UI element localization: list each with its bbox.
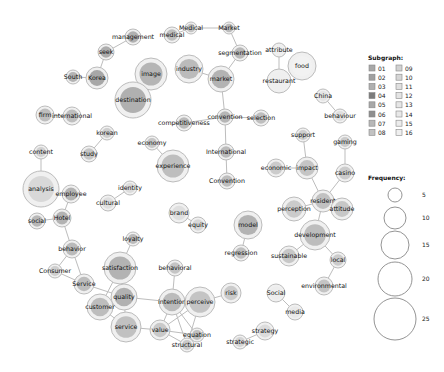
node-service[interactable]: service [111, 312, 141, 342]
node-perceive[interactable]: perceive [185, 287, 215, 317]
node-label: strategic [226, 338, 254, 346]
node-South[interactable]: South [64, 70, 82, 84]
node-casino[interactable]: casino [335, 164, 355, 182]
node-sustainable[interactable]: sustainable [271, 246, 307, 266]
subgraph-legend-item-16: 16 [396, 129, 413, 136]
node-study[interactable]: study [80, 146, 98, 162]
node-experience[interactable]: experience [156, 150, 191, 182]
node-label: equity [188, 221, 208, 229]
node-label: economic [261, 164, 292, 171]
node-social[interactable]: social [28, 213, 46, 229]
node-identity[interactable]: identity [118, 181, 142, 195]
node-environmental[interactable]: environmental [301, 277, 347, 295]
node-label: perception [277, 205, 311, 213]
node-behavior[interactable]: behavior [58, 240, 86, 258]
node-Korea[interactable]: Korea [86, 67, 108, 89]
subgraph-label: 15 [405, 120, 413, 127]
node-quality[interactable]: quality [111, 284, 137, 310]
node-analysis[interactable]: analysis [23, 171, 59, 207]
node-economic[interactable]: economic [261, 159, 292, 177]
subgraph-label: 14 [405, 111, 413, 118]
node-regression[interactable]: regression [225, 245, 258, 261]
node-management[interactable]: management [112, 29, 155, 45]
node-employee[interactable]: employee [55, 185, 86, 203]
node-market[interactable]: market [208, 66, 234, 92]
subgraph-swatch [396, 65, 402, 71]
node-label: restaurant [263, 77, 296, 84]
node-label: attribute [265, 46, 293, 53]
node-label: analysis [28, 185, 54, 193]
node-label: medical [160, 31, 185, 38]
node-behaviour[interactable]: behaviour [324, 109, 356, 123]
node-gaming[interactable]: gaming [333, 135, 357, 149]
node-seek[interactable]: seek [98, 44, 114, 60]
node-economy[interactable]: economy [138, 136, 167, 150]
node-value[interactable]: value [150, 320, 170, 340]
node-international[interactable]: international [52, 107, 92, 125]
node-label: model [238, 221, 258, 228]
node-label: experience [156, 162, 191, 170]
node-label: support [291, 131, 316, 139]
node-attribute[interactable]: attribute [265, 43, 293, 57]
node-label: brand [170, 209, 188, 216]
node-Social[interactable]: Social [267, 284, 286, 302]
node-label: firm [39, 111, 52, 118]
node-industry[interactable]: industry [175, 55, 203, 83]
node-model[interactable]: model [234, 211, 262, 239]
subgraph-label: 11 [405, 83, 413, 90]
subgraph-label: 12 [405, 92, 413, 99]
node-competitiveness[interactable]: competitiveness [158, 115, 210, 131]
node-label: study [80, 150, 98, 158]
subgraph-label: 05 [378, 101, 386, 108]
node-label: sustainable [271, 252, 307, 259]
subgraph-swatch [396, 83, 402, 89]
subgraph-legend-item-10: 10 [396, 74, 413, 81]
node-risk[interactable]: risk [221, 283, 241, 303]
node-China[interactable]: China [314, 89, 332, 103]
node-food[interactable]: food [288, 52, 316, 80]
node-support[interactable]: support [291, 128, 316, 142]
node-International[interactable]: International [206, 144, 246, 160]
subgraph-label: 10 [405, 74, 413, 81]
node-strategy[interactable]: strategy [252, 322, 279, 340]
node-label: regression [225, 249, 258, 257]
node-loyalty[interactable]: loyalty [122, 232, 143, 246]
node-label: International [206, 148, 246, 155]
node-Market[interactable]: Market [218, 22, 240, 34]
node-label: destination [115, 96, 150, 103]
node-development[interactable]: development [294, 220, 336, 250]
node-behavioral[interactable]: behavioral [158, 260, 191, 276]
node-destination[interactable]: destination [115, 82, 151, 118]
subgraph-legend-item-08: 08 [369, 129, 386, 136]
subgraph-legend-item-06: 06 [369, 111, 386, 118]
node-media[interactable]: media [285, 304, 305, 320]
nodes-layer: managementmedicalMedicalMarketseekSouthK… [23, 22, 357, 352]
frequency-legend-item-10: 10 [384, 207, 430, 229]
node-label: development [294, 231, 336, 239]
node-Hotel[interactable]: Hotel [53, 209, 71, 227]
node-equity[interactable]: equity [188, 217, 208, 233]
node-label: attitude [330, 205, 355, 212]
node-label: Service [72, 280, 95, 287]
node-satisfaction[interactable]: satisfaction [102, 252, 138, 284]
node-label: quality [113, 293, 135, 301]
frequency-label: 25 [422, 315, 430, 322]
node-selection[interactable]: selection [247, 110, 275, 126]
node-intention[interactable]: intention [158, 289, 186, 315]
node-korean[interactable]: korean [96, 126, 117, 140]
node-Convention[interactable]: Convention [209, 173, 245, 189]
subgraph-legend-title: Subgraph: [368, 54, 403, 62]
node-label: management [112, 33, 155, 41]
node-content[interactable]: content [29, 145, 54, 159]
node-segmentation[interactable]: segmentation [218, 45, 262, 61]
node-convention[interactable]: convention [208, 109, 243, 125]
subgraph-legend-item-05: 05 [369, 101, 386, 108]
node-impact[interactable]: impact [296, 157, 318, 179]
node-Service[interactable]: Service [72, 274, 95, 294]
subgraph-label: 04 [378, 92, 386, 99]
node-local[interactable]: local [330, 252, 346, 268]
subgraph-legend-item-15: 15 [396, 120, 413, 127]
subgraph-swatch [369, 74, 375, 80]
node-brand[interactable]: brand [169, 203, 189, 223]
node-perception[interactable]: perception [277, 197, 311, 221]
